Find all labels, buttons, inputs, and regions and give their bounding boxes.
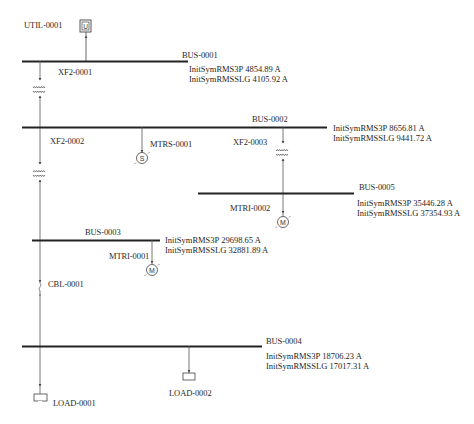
bus-0004-label: BUS-0004 (266, 336, 302, 346)
transformer-xf2-0002-label: XF2-0002 (50, 136, 84, 146)
transformer-xf2-0002-symbol[interactable] (33, 162, 47, 182)
bus-0002-results: InitSymRMS3P 8656.81 A InitSymRMSSLG 944… (333, 124, 432, 143)
transformer-xf2-0001-label: XF2-0001 (58, 67, 92, 77)
bus-0005-label: BUS-0005 (359, 182, 395, 192)
load-0001-label: LOAD-0001 (53, 398, 96, 408)
bus-0004-results: InitSymRMS3P 18706.23 A InitSymRMSSLG 17… (266, 352, 369, 371)
svg-text:M: M (149, 267, 155, 274)
svg-text:M: M (280, 219, 286, 226)
transformer-xf2-0001-symbol[interactable] (33, 78, 47, 98)
bus-0005-results: InitSymRMS3P 35446.28 A InitSymRMSSLG 37… (357, 199, 460, 218)
utility-source[interactable]: U (80, 20, 91, 61)
bus-0003-label: BUS-0003 (85, 227, 121, 237)
load-0002-label: LOAD-0002 (169, 388, 212, 398)
svg-text:S: S (140, 155, 145, 162)
bus-0004-slg-result: InitSymRMSSLG 17017.31 A (266, 362, 369, 372)
bus-0001-results: InitSymRMS3P 4854.89 A InitSymRMSSLG 410… (189, 65, 288, 84)
load-0001-symbol[interactable] (34, 384, 47, 401)
bus-0001-label: BUS-0001 (182, 50, 218, 60)
bus-0003-slg-result: InitSymRMSSLG 32881.89 A (165, 246, 268, 256)
utility-label: UTIL-0001 (24, 20, 62, 30)
motor-mtrs-0001-label: MTRS-0001 (150, 139, 192, 149)
motor-mtri-0001-label: MTRI-0001 (109, 251, 149, 261)
synchronous-motor-mtrs-0001[interactable]: S (135, 127, 150, 164)
cable-cbl-0001-symbol[interactable] (36, 276, 44, 296)
transformer-xf2-0003-label: XF2-0003 (233, 137, 267, 147)
motor-mtri-0002-label: MTRI-0002 (230, 203, 270, 213)
cable-cbl-0001-label: CBL-0001 (48, 279, 84, 289)
bus-0001-slg-result: InitSymRMSSLG 4105.92 A (189, 75, 288, 85)
svg-text:U: U (83, 23, 88, 30)
bus-0003-results: InitSymRMS3P 29698.65 A InitSymRMSSLG 32… (165, 236, 268, 255)
bus-0002-label: BUS-0002 (252, 114, 288, 124)
bus-0002-slg-result: InitSymRMSSLG 9441.72 A (333, 134, 432, 144)
bus-0005-slg-result: InitSymRMSSLG 37354.93 A (357, 209, 460, 219)
load-0002-symbol[interactable] (183, 346, 195, 380)
